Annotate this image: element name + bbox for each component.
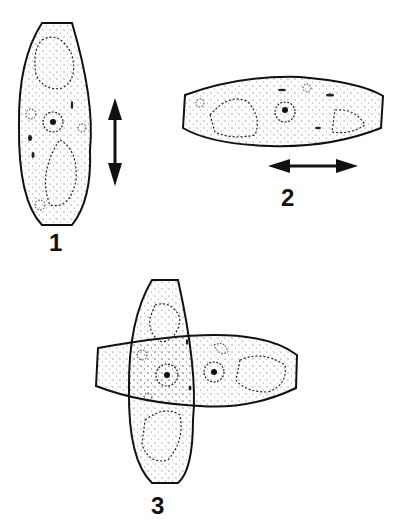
cell-3-vertical bbox=[129, 280, 194, 483]
panel-label-2: 2 bbox=[281, 186, 294, 210]
cell-2 bbox=[183, 77, 383, 146]
panel-label-1: 1 bbox=[49, 231, 62, 255]
horizontal-double-arrow-icon bbox=[268, 159, 358, 173]
figure-canvas bbox=[0, 0, 401, 528]
cell-3-horizontal bbox=[96, 335, 297, 407]
vertical-double-arrow-icon bbox=[108, 98, 122, 186]
panel-label-3: 3 bbox=[151, 494, 164, 518]
cell-1 bbox=[19, 23, 91, 225]
